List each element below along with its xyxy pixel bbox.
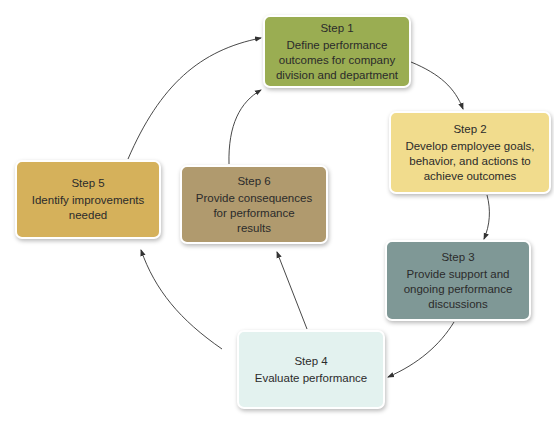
arrow-step3-to-step4 (388, 322, 454, 377)
arrow-step1-to-step2 (411, 62, 463, 109)
step-2-box: Step 2 Develop employee goals, behavior,… (389, 111, 551, 194)
step-5-title: Step 5 (71, 176, 104, 191)
step-5-box: Step 5 Identify improvements needed (15, 160, 161, 239)
arrow-step2-to-step3 (484, 195, 489, 239)
step-6-title: Step 6 (237, 174, 270, 189)
step-4-description: Evaluate performance (255, 371, 368, 386)
step-6-box: Step 6 Provide consequences for performa… (180, 165, 328, 244)
step-4-title: Step 4 (294, 354, 327, 369)
step-1-title: Step 1 (320, 21, 353, 36)
arrow-step6-to-step1 (229, 90, 261, 164)
performance-management-cycle-diagram: Step 1 Define performance outcomes for c… (0, 0, 554, 428)
arrow-step4-to-step6 (277, 252, 307, 329)
step-5-description: Identify improvements needed (32, 193, 145, 223)
arrow-step5-to-step1 (128, 38, 261, 159)
step-3-box: Step 3 Provide support and ongoing perfo… (385, 240, 531, 321)
arrow-step4-to-step5 (141, 250, 222, 349)
step-3-title: Step 3 (441, 250, 474, 265)
step-2-title: Step 2 (453, 122, 486, 137)
step-4-box: Step 4 Evaluate performance (237, 330, 385, 409)
step-1-box: Step 1 Define performance outcomes for c… (263, 15, 411, 88)
step-6-description: Provide consequences for performance res… (196, 191, 312, 236)
step-3-description: Provide support and ongoing performance … (404, 267, 513, 312)
step-1-description: Define performance outcomes for company … (276, 38, 398, 83)
step-2-description: Develop employee goals, behavior, and ac… (405, 139, 534, 184)
